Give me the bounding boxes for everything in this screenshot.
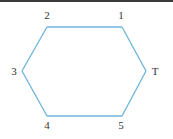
node-label-4: 4 — [44, 119, 50, 131]
node-label-5: 5 — [118, 119, 124, 131]
node-label-2: 2 — [44, 9, 50, 21]
edge-T-5 — [122, 71, 146, 116]
node-label-T: T — [152, 65, 159, 77]
edge-4-3 — [22, 71, 47, 116]
edges — [22, 27, 146, 116]
edge-3-2 — [22, 27, 47, 71]
edge-1-T — [122, 27, 146, 71]
node-label-3: 3 — [11, 65, 17, 77]
hexagon-diagram: 12345T — [0, 0, 173, 139]
node-label-1: 1 — [118, 9, 124, 21]
